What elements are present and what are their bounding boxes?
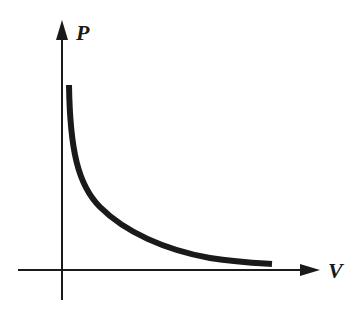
- y-axis-label: P: [75, 20, 90, 45]
- pv-curve: [69, 85, 272, 264]
- x-axis-label: V: [328, 258, 345, 283]
- pv-diagram: P V: [0, 0, 363, 315]
- x-axis-arrow-icon: [300, 264, 320, 276]
- y-axis-arrow-icon: [56, 20, 68, 40]
